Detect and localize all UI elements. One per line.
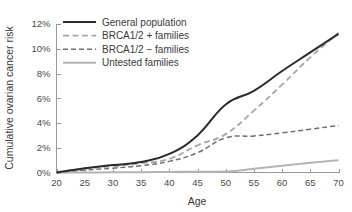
legend-label: General population: [102, 17, 187, 28]
y-tick-label: 8%: [37, 68, 51, 79]
legend-label: BRCA1/2 + families: [102, 30, 189, 41]
x-tick-label: 50: [220, 177, 231, 188]
line-chart: 0%2%4%6%8%10%12% 2025303540455055606570 …: [0, 0, 352, 212]
legend-label: Untested families: [102, 57, 179, 68]
x-tick-label: 25: [79, 177, 90, 188]
x-tick-label: 55: [249, 177, 260, 188]
y-axis-title: Cumulative ovarian cancer risk: [3, 25, 15, 169]
x-tick-label: 30: [108, 177, 119, 188]
x-tick-label: 40: [164, 177, 175, 188]
x-tick-label: 60: [277, 177, 288, 188]
x-tick-label: 45: [192, 177, 203, 188]
x-tick-label: 35: [136, 177, 147, 188]
y-tick-label: 2%: [37, 142, 51, 153]
legend-label: BRCA1/2 − families: [102, 44, 189, 55]
x-tick-label: 20: [51, 177, 62, 188]
x-tick-label: 65: [305, 177, 316, 188]
y-tick-label: 6%: [37, 93, 51, 104]
y-tick-label: 12%: [31, 18, 51, 29]
x-tick-label: 70: [333, 177, 344, 188]
chart-container: 0%2%4%6%8%10%12% 2025303540455055606570 …: [0, 0, 352, 212]
y-tick-label: 0%: [37, 167, 51, 178]
y-tick-label: 10%: [31, 43, 51, 54]
y-tick-label: 4%: [37, 117, 51, 128]
x-axis-title: Age: [188, 195, 207, 207]
